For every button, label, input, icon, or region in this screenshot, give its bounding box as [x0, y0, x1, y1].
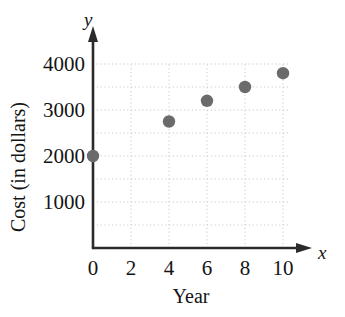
y-axis-title: Cost (in dollars) — [8, 102, 28, 232]
data-point — [163, 115, 175, 127]
x-axis-variable-letter: x — [318, 243, 326, 262]
data-point — [87, 150, 99, 162]
x-tick-label: 10 — [273, 258, 294, 279]
data-point-group — [87, 67, 289, 162]
grid-lines — [93, 64, 291, 248]
y-tick-label: 4000 — [0, 54, 85, 75]
x-tick-label: 8 — [240, 258, 251, 279]
x-tick-label: 4 — [164, 258, 175, 279]
data-point — [277, 67, 289, 79]
x-axis-arrowhead — [296, 243, 312, 253]
data-point — [201, 95, 213, 107]
data-point — [239, 81, 251, 93]
x-tick-label: 2 — [126, 258, 137, 279]
axes — [88, 26, 312, 253]
x-axis-title: Year — [173, 286, 210, 306]
x-tick-label: 0 — [88, 258, 99, 279]
scatter-plot-figure: 1000200030004000 0246810 y x Year Cost (… — [0, 0, 345, 317]
x-tick-label: 6 — [202, 258, 213, 279]
y-axis-variable-letter: y — [84, 10, 92, 29]
